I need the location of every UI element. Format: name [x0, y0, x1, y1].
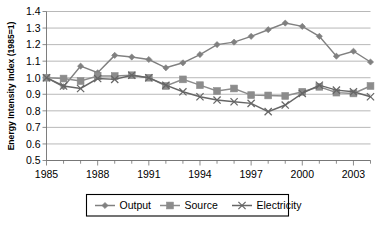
data-point-marker	[282, 20, 288, 26]
x-tick-label: 1994	[188, 168, 212, 180]
data-point-marker	[231, 85, 238, 92]
data-point-marker	[77, 78, 84, 85]
data-point-marker	[248, 92, 255, 99]
chart-container: 0.50.60.70.80.91.01.11.21.31.4 198519881…	[0, 0, 375, 226]
x-tick-label: 1997	[239, 168, 263, 180]
y-tickmarks-group	[43, 12, 47, 161]
series-source	[43, 72, 374, 99]
data-point-marker	[248, 33, 254, 39]
y-tick-labels-group: 0.50.60.70.80.91.01.11.21.31.4	[26, 5, 41, 166]
data-point-marker	[167, 202, 174, 209]
y-tick-label: 1.2	[26, 38, 41, 50]
data-point-marker	[282, 101, 289, 108]
x-tick-label: 1991	[137, 168, 161, 180]
data-point-marker	[282, 93, 289, 100]
data-point-marker	[214, 42, 220, 48]
data-point-marker	[299, 23, 305, 29]
data-point-marker	[197, 51, 203, 57]
data-point-marker	[265, 108, 272, 115]
chart-legend: OutputSourceElectricity	[87, 195, 303, 217]
data-point-marker	[180, 60, 186, 66]
series-lines-group	[43, 20, 374, 115]
x-tickmarks-group	[47, 161, 371, 166]
legend-label: Source	[185, 199, 218, 211]
y-axis-title: Energy Intensity Index (1985=1)	[6, 22, 16, 151]
y-tick-label: 0.8	[26, 105, 41, 117]
data-point-marker	[197, 82, 204, 89]
y-tick-label: 1.1	[26, 55, 41, 67]
x-tick-label: 1985	[35, 168, 59, 180]
data-point-marker	[265, 92, 272, 99]
data-point-marker	[129, 54, 135, 60]
data-point-marker	[214, 88, 221, 95]
x-tick-label: 2000	[291, 168, 315, 180]
data-point-marker	[367, 83, 374, 90]
y-tick-label: 0.9	[26, 88, 41, 100]
data-point-marker	[163, 65, 169, 71]
y-tick-label: 1.0	[26, 72, 41, 84]
data-point-marker	[265, 27, 271, 33]
series-output	[43, 20, 373, 90]
y-tick-label: 0.7	[26, 121, 41, 133]
energy-intensity-line-chart: 0.50.60.70.80.91.01.11.21.31.4 198519881…	[0, 0, 375, 226]
y-tick-label: 1.3	[26, 22, 41, 34]
y-tick-label: 0.6	[26, 138, 41, 150]
data-point-marker	[60, 75, 67, 82]
data-point-marker	[146, 56, 152, 62]
x-tick-label: 1988	[86, 168, 110, 180]
y-tick-label: 0.5	[26, 154, 41, 166]
y-tick-label: 1.4	[26, 5, 41, 17]
data-point-marker	[180, 76, 187, 83]
legend-label: Electricity	[257, 199, 303, 211]
legend-label: Output	[120, 199, 152, 211]
x-tick-labels-group: 1985198819911994199720002003	[35, 168, 365, 180]
x-tick-label: 2003	[342, 168, 366, 180]
